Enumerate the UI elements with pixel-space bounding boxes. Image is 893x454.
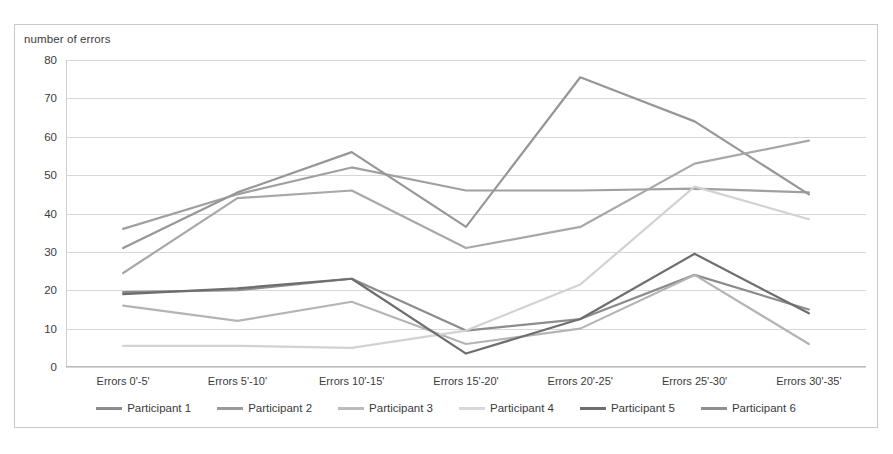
y-axis-tick-label: 50 — [44, 169, 57, 181]
x-axis-tick-label: Errors 10'-15' — [295, 375, 409, 393]
legend-item[interactable]: Participant 2 — [217, 402, 312, 414]
y-axis-tick-label: 40 — [44, 208, 57, 220]
legend-swatch-icon — [701, 407, 727, 410]
legend-swatch-icon — [338, 407, 364, 410]
x-axis-tick-label: Errors 0'-5' — [66, 375, 180, 393]
legend-swatch-icon — [580, 407, 606, 410]
legend-swatch-icon — [96, 407, 122, 410]
chart-legend: Participant 1Participant 2Participant 3P… — [14, 402, 878, 414]
gridline — [66, 367, 866, 368]
y-axis-tick-label: 80 — [44, 54, 57, 66]
legend-item[interactable]: Participant 1 — [96, 402, 191, 414]
legend-label: Participant 2 — [248, 402, 312, 414]
legend-label: Participant 3 — [369, 402, 433, 414]
x-axis-tick-label: Errors 20'-25' — [523, 375, 637, 393]
y-axis-tick-label: 70 — [44, 92, 57, 104]
legend-item[interactable]: Participant 5 — [580, 402, 675, 414]
series-line — [123, 77, 809, 248]
legend-label: Participant 4 — [490, 402, 554, 414]
x-axis-tick-label: Errors 5'-10' — [180, 375, 294, 393]
legend-swatch-icon — [217, 407, 243, 410]
line-chart-figure: number of errors 01020304050607080 Error… — [0, 0, 893, 454]
series-line — [123, 275, 809, 344]
y-axis-tick-label: 30 — [44, 246, 57, 258]
series-line — [123, 187, 809, 348]
y-axis-tick-label: 0 — [51, 361, 57, 373]
legend-item[interactable]: Participant 6 — [701, 402, 796, 414]
series-lines — [66, 60, 866, 367]
y-axis-tick-label: 10 — [44, 323, 57, 335]
x-axis-tick-label: Errors 25'-30' — [637, 375, 751, 393]
legend-label: Participant 6 — [732, 402, 796, 414]
x-axis-tick-label: Errors 30'-35' — [752, 375, 866, 393]
legend-label: Participant 5 — [611, 402, 675, 414]
series-line — [123, 254, 809, 354]
series-line — [123, 275, 809, 331]
x-axis-tick-label: Errors 15'-20' — [409, 375, 523, 393]
y-axis-tick-label: 60 — [44, 131, 57, 143]
legend-item[interactable]: Participant 4 — [459, 402, 554, 414]
y-axis-title: number of errors — [24, 33, 111, 45]
series-line — [123, 141, 809, 273]
legend-item[interactable]: Participant 3 — [338, 402, 433, 414]
y-axis-tick-label: 20 — [44, 284, 57, 296]
legend-label: Participant 1 — [127, 402, 191, 414]
plot-area: 01020304050607080 — [66, 60, 866, 367]
x-axis-tick-labels: Errors 0'-5'Errors 5'-10'Errors 10'-15'E… — [66, 375, 866, 393]
legend-swatch-icon — [459, 407, 485, 410]
